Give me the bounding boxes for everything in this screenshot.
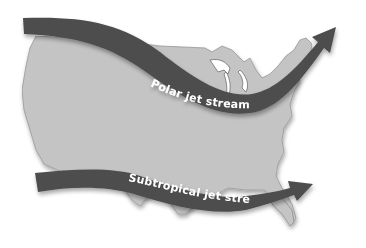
diagram-canvas: Polar jet stream Subtropical jet stream [0,0,366,248]
jet-stream-diagram: Polar jet stream Subtropical jet stream [0,0,366,248]
